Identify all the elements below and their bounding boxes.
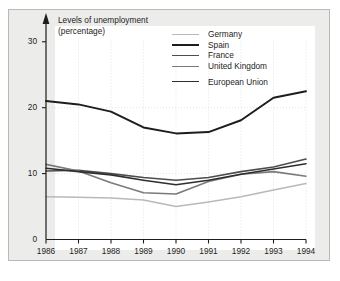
y-axis-tick-label: 0 (15, 234, 37, 244)
x-axis-tick-label: 1992 (226, 246, 256, 256)
x-axis-tick-label: 1986 (31, 246, 61, 256)
legend-item-france[interactable]: France (172, 50, 268, 61)
legend-label: Spain (208, 40, 229, 50)
y-axis-tick-label: 20 (15, 102, 37, 112)
chart-figure: Levels of unemployment(percentage) Germa… (0, 0, 340, 281)
legend-item-united-kingdom[interactable]: United Kingdom (172, 61, 268, 72)
y-axis-arrow-icon (43, 13, 50, 24)
x-axis-tick-label: 1987 (64, 246, 94, 256)
x-axis-tick-label: 1991 (194, 246, 224, 256)
legend-label: Germany (208, 29, 242, 39)
x-axis-tick-label: 1993 (259, 246, 289, 256)
y-axis-tick-label: 10 (15, 168, 37, 178)
legend-item-spain[interactable]: Spain (172, 40, 268, 51)
legend-swatch-icon (172, 44, 199, 46)
legend-swatch-icon (172, 81, 199, 82)
legend-item-european-union[interactable]: European Union (172, 76, 268, 87)
legend: GermanySpainFranceUnited KingdomEuropean… (172, 29, 268, 87)
y-axis-tick-label: 30 (15, 36, 37, 46)
x-axis-tick-label: 1988 (96, 246, 126, 256)
chart-svg (0, 0, 340, 281)
legend-swatch-icon (172, 34, 199, 35)
legend-swatch-icon (172, 66, 199, 67)
x-axis-tick-label: 1994 (291, 246, 321, 256)
legend-label: European Union (208, 77, 268, 87)
x-axis-tick-label: 1990 (161, 246, 191, 256)
legend-swatch-icon (172, 55, 199, 56)
legend-label: United Kingdom (208, 61, 267, 71)
legend-item-germany[interactable]: Germany (172, 29, 268, 40)
legend-label: France (208, 50, 234, 60)
x-axis-tick-label: 1989 (129, 246, 159, 256)
